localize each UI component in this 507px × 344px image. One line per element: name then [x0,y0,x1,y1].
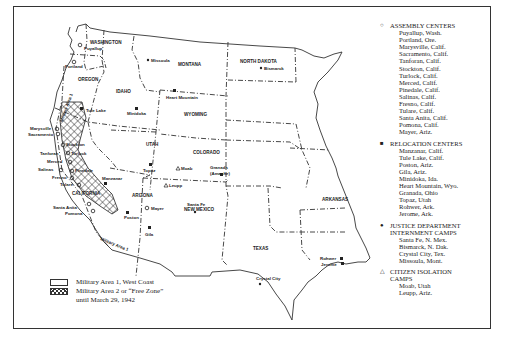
city-stockton: Stockton [66,142,85,147]
legend-title: CITIZEN ISOLATION [390,268,452,275]
legend-item: Missoula, Mont. [399,257,495,264]
legend-item: Poston, Ariz. [399,161,495,168]
city-tanforan: Tanforan [40,151,59,156]
city-pomona: Pomona [65,211,83,216]
filled-circle-icon: ● [380,222,390,229]
military-area-1-text: Military Area 1, West Coast [76,278,154,287]
legend-title: INTERNMENT CAMPS [390,229,461,236]
legend-item: Jerome, Ark. [399,210,495,217]
state-arizona: ARIZONA [132,193,154,198]
city-merced: Merced [47,159,63,164]
city-tulare: Tulare [60,182,73,187]
legend-isolation-camps: △ CITIZEN ISOLATION CAMPS Moab, UtahLeup… [380,268,495,296]
city-topaz: Topaz [143,168,156,173]
justice-camp-markers [147,59,262,285]
open-triangle-icon: △ [380,268,390,275]
city-crystal-city: Crystal City [256,276,281,281]
legend-item: Tule Lake, Calif. [399,154,495,161]
legend-item: Pinedale, Calif. [399,86,495,93]
city-missoula: Missoula [151,58,170,63]
legend-title: JUSTICE DEPARTMENT [390,222,461,229]
city-amache: (Amache) [210,171,231,176]
legend-item: Tanforan, Calif. [399,57,495,64]
legend-item: Crystal City, Tex. [399,250,495,257]
legend-item: Minidoka, Ida. [399,175,495,182]
legend-title: RELOCATION CENTERS [390,140,462,147]
city-granada: Granada [210,165,228,170]
city-tule-lake: Tule Lake [86,108,106,113]
legend-item: Merced, Calif. [399,79,495,86]
legend-item: Mayer, Ariz. [399,128,495,135]
plain-box-icon [50,279,68,286]
legend-item: Tulare, Calif. [399,107,495,114]
filled-square-icon: ■ [380,140,390,147]
legend-item: Topaz, Utah [399,196,495,203]
legend-item: Stockton, Calif. [399,65,495,72]
city-heart-mountain: Heart Mountain [166,95,198,100]
city-manzanar: Manzanar [102,176,123,181]
city-santa-anita: Santa Anita [53,205,78,210]
legend-item: Manzanar, Calif. [399,147,495,154]
legend-item: Pomona, Calif. [399,121,495,128]
legend-item: Gila, Ariz. [399,168,495,175]
legend-item: Santa Anita, Calif. [399,114,495,121]
state-washington: WASHINGTON [90,40,122,45]
legend-item: Leupp, Ariz. [399,289,495,296]
city-portland: Portland [65,64,83,69]
legend-item: Moab, Utah [399,282,495,289]
legend-title: CAMPS [390,275,452,282]
state-wyoming: WYOMING [184,112,207,117]
state-new-mexico: NEW MEXICO [184,207,215,212]
legend-justice-camps: ● JUSTICE DEPARTMENT INTERNMENT CAMPS Sa… [380,222,495,265]
city-moab: Moab [181,166,193,171]
camp-type-legend: ○ ASSEMBLY CENTERS Puyallup, Wash.Portla… [380,22,495,300]
legend-item: Puyallup, Wash. [399,29,495,36]
legend-item: Rohwer, Ark. [399,203,495,210]
city-minidoka: Minidoka [127,111,147,116]
mississippi-river [295,48,362,240]
state-colorado: COLORADO [193,150,220,155]
legend-item: Turlock, Calif. [399,72,495,79]
city-santa-fe: Santa Fe [187,202,206,207]
military-area-1-label-south: Military Area 1 [100,236,130,252]
legend-item: Granada, Ohio [399,189,495,196]
legend-title: ASSEMBLY CENTERS [390,22,455,29]
city-fresno: Fresno [52,175,67,180]
city-sacramento: Sacramento [28,132,53,137]
open-circle-icon: ○ [380,22,390,29]
city-pinedale: Pinedale [75,168,94,173]
military-area-legend: Military Area 1, West Coast Military Are… [50,278,163,305]
state-utah: UTAH [146,142,159,147]
state-california: CALIFORNIA [72,191,101,196]
city-puyallup: Puyallup [84,46,103,51]
state-oregon: OREGON [78,77,99,82]
legend-assembly-centers: ○ ASSEMBLY CENTERS Puyallup, Wash.Portla… [380,22,495,136]
legend-item: Marysville, Calif. [399,43,495,50]
city-gila: Gila [145,232,154,237]
city-rohwer: Rohwer [320,256,336,261]
state-idaho: IDAHO [116,89,131,94]
west-coastline [50,27,112,250]
legend-item: Heart Mountain, Wyo. [399,182,495,189]
legend-item: Bismarck, N. Dak. [399,243,495,250]
city-jerome: Jerome [321,262,337,267]
city-marysville: Marysville [30,126,52,131]
legend-item: Santa Fe, N. Mex. [399,236,495,243]
legend-relocation-centers: ■ RELOCATION CENTERS Manzanar, Calif.Tul… [380,140,495,218]
city-turlock: Turlock [71,151,87,156]
city-salinas: Salinas [38,167,54,172]
hatched-box-icon [50,288,68,295]
city-leupp: Leupp [169,183,182,188]
state-texas: TEXAS [253,246,268,251]
state-arkansas: ARKANSAS [322,197,348,202]
state-montana: MONTANA [178,62,202,67]
city-poston: Poston [124,215,139,220]
military-area-2-text: Military Area 2 or “Free Zone” [76,287,163,296]
military-area-2-date: until March 29, 1942 [50,296,163,305]
city-bismarck: Bismarck [264,66,284,71]
state-north-dakota: NORTH DAKOTA [240,59,278,64]
legend-item: Portland, Ore. [399,36,495,43]
legend-item: Sacramento, Calif. [399,50,495,57]
city-mayer: Mayer [151,206,164,211]
legend-item: Fresno, Calif. [399,100,495,107]
